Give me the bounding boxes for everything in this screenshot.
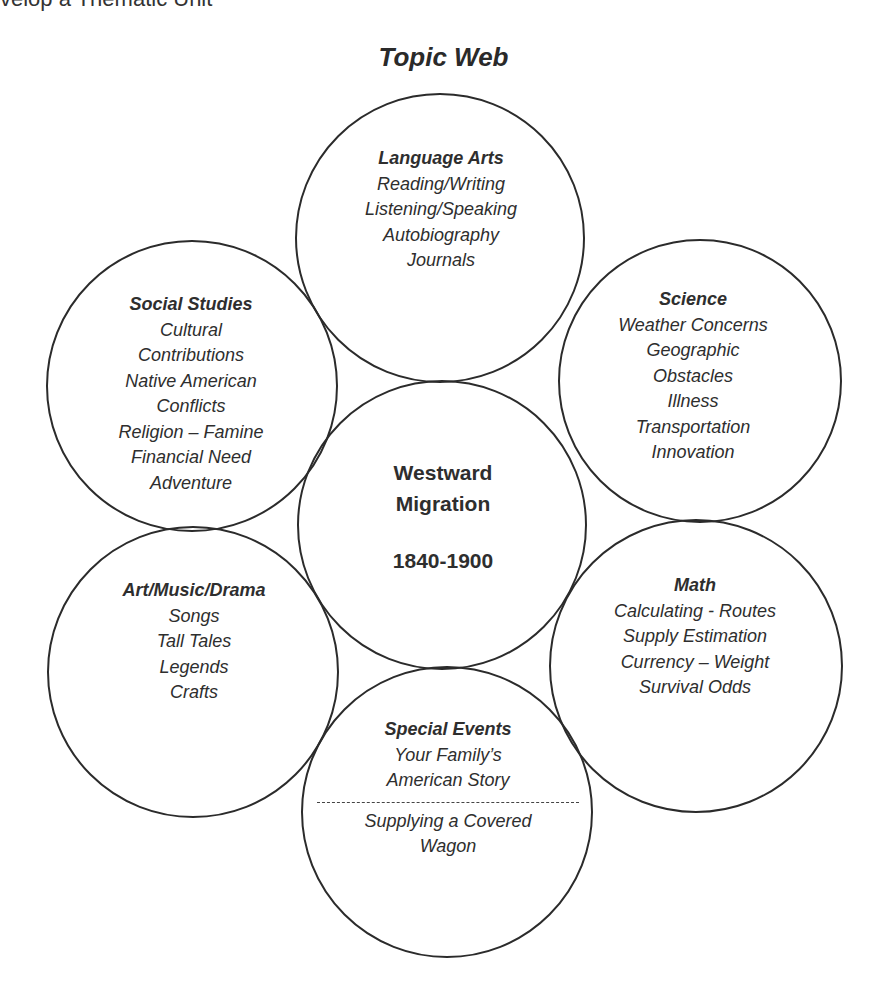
node-item: Journals bbox=[365, 248, 517, 274]
node-item: Supply Estimation bbox=[614, 624, 776, 650]
node-social-studies: Social Studies Cultural Contributions Na… bbox=[118, 292, 263, 496]
node-heading: Special Events bbox=[317, 717, 579, 743]
node-item: Obstacles bbox=[618, 364, 768, 390]
node-item: Songs bbox=[122, 604, 265, 630]
node-special-events: Special Events Your Family’s American St… bbox=[317, 717, 579, 860]
node-item: Financial Need bbox=[118, 445, 263, 471]
node-item: Illness bbox=[618, 389, 768, 415]
node-item: Cultural bbox=[118, 318, 263, 344]
node-item: Survival Odds bbox=[614, 675, 776, 701]
dashed-divider bbox=[317, 802, 579, 803]
node-item: Crafts bbox=[122, 680, 265, 706]
node-item: Listening/Speaking bbox=[365, 197, 517, 223]
node-heading: Social Studies bbox=[118, 292, 263, 318]
node-item: Currency – Weight bbox=[614, 650, 776, 676]
center-years: 1840-1900 bbox=[393, 545, 493, 576]
node-science: Science Weather Concerns Geographic Obst… bbox=[618, 287, 768, 466]
node-heading: Art/Music/Drama bbox=[122, 578, 265, 604]
node-item: Adventure bbox=[118, 471, 263, 497]
node-item: Supplying a Covered bbox=[317, 809, 579, 835]
node-item: Transportation bbox=[618, 415, 768, 441]
node-item: Innovation bbox=[618, 440, 768, 466]
node-item: Tall Tales bbox=[122, 629, 265, 655]
node-heading: Math bbox=[614, 573, 776, 599]
node-art-music-drama: Art/Music/Drama Songs Tall Tales Legends… bbox=[122, 578, 265, 706]
node-item: Calculating - Routes bbox=[614, 599, 776, 625]
node-center-topic: Westward Migration 1840-1900 bbox=[393, 457, 493, 576]
node-item: American Story bbox=[317, 768, 579, 794]
center-title-line-1: Westward bbox=[393, 457, 493, 488]
node-item: Native American bbox=[118, 369, 263, 395]
node-item: Your Family’s bbox=[317, 743, 579, 769]
node-math: Math Calculating - Routes Supply Estimat… bbox=[614, 573, 776, 701]
node-item: Legends bbox=[122, 655, 265, 681]
center-title-line-2: Migration bbox=[393, 488, 493, 519]
node-item: Religion – Famine bbox=[118, 420, 263, 446]
node-item: Geographic bbox=[618, 338, 768, 364]
node-item: Weather Concerns bbox=[618, 313, 768, 339]
node-heading: Language Arts bbox=[365, 146, 517, 172]
node-item: Conflicts bbox=[118, 394, 263, 420]
node-item: Contributions bbox=[118, 343, 263, 369]
node-item: Reading/Writing bbox=[365, 172, 517, 198]
node-item: Autobiography bbox=[365, 223, 517, 249]
node-heading: Science bbox=[618, 287, 768, 313]
node-item: Wagon bbox=[317, 834, 579, 860]
node-language-arts: Language Arts Reading/Writing Listening/… bbox=[365, 146, 517, 274]
